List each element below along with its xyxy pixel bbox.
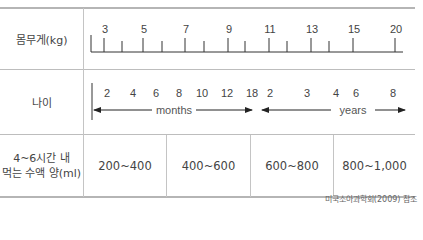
months-label: months — [156, 104, 193, 116]
intake-value: 200~400 — [84, 159, 166, 173]
age-month-label: 8 — [176, 87, 182, 99]
age-year-label: 3 — [304, 87, 310, 99]
age-month-label: 4 — [130, 87, 136, 99]
age-year-label: 4 — [333, 87, 339, 99]
age-year-label: 6 — [353, 87, 359, 99]
source-footnote: 미국소아과학회(2009) 참조 — [325, 193, 417, 203]
age-month-label: 2 — [104, 87, 110, 99]
weight-tick-label: 11 — [264, 23, 275, 35]
years-label: years — [340, 104, 367, 116]
weight-scale: 357911131520 — [91, 23, 403, 52]
intake-value: 400~600 — [167, 159, 250, 173]
age-year-label: 2 — [267, 87, 273, 99]
age-scale: 246810121823468monthsyears — [92, 83, 405, 120]
age-month-label: 10 — [196, 87, 208, 99]
age-month-label: 12 — [221, 87, 233, 99]
weight-tick-label: 7 — [183, 23, 189, 35]
age-month-label: 18 — [246, 87, 258, 99]
weight-tick-label: 5 — [141, 23, 147, 35]
weight-tick-label: 13 — [306, 23, 318, 35]
weight-tick-label: 9 — [226, 23, 232, 35]
age-month-label: 6 — [153, 87, 159, 99]
intake-value: 800~1,000 — [334, 159, 415, 173]
intake-value: 600~800 — [251, 159, 333, 173]
weight-tick-label: 20 — [390, 23, 402, 35]
age-year-label: 8 — [390, 87, 396, 99]
weight-tick-label: 3 — [102, 23, 108, 35]
weight-tick-label: 15 — [348, 23, 360, 35]
